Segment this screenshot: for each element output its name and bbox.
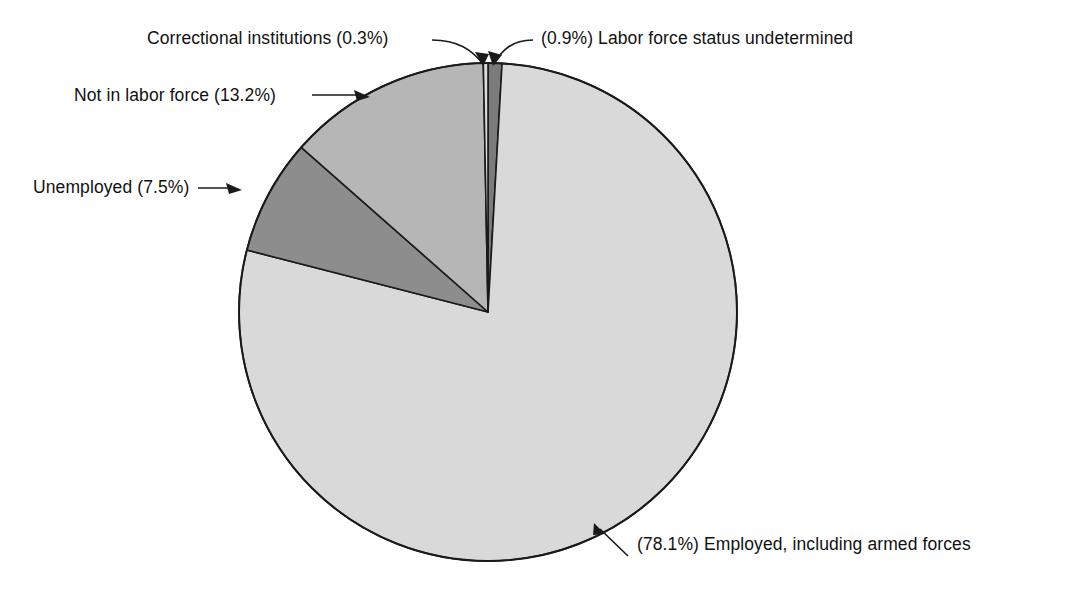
- pie-slices-group: [239, 63, 737, 561]
- slice-label-correctional: Correctional institutions (0.3%): [147, 28, 389, 48]
- leader-line-undetermined: [494, 40, 533, 64]
- slice-label-unemployed: Unemployed (7.5%): [33, 177, 189, 197]
- leader-line-employed: [600, 529, 628, 556]
- pie-chart-figure: Correctional institutions (0.3%) (0.9%) …: [0, 0, 1084, 606]
- arrowhead-unemployed: [226, 183, 242, 194]
- leader-line-correctional: [432, 40, 483, 64]
- slice-label-undetermined: (0.9%) Labor force status undetermined: [541, 28, 853, 48]
- slice-label-not-in-labor-force: Not in labor force (13.2%): [74, 85, 276, 105]
- slice-label-employed: (78.1%) Employed, including armed forces: [637, 534, 971, 554]
